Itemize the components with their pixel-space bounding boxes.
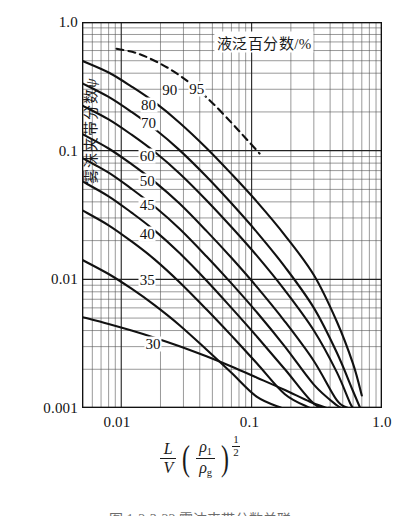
curve-label-80: 80: [140, 98, 157, 113]
grid-major: [82, 22, 382, 408]
y-axis-title: 雾沫夹带分数ψ: [79, 36, 100, 226]
flow-ratio-denominator: V: [160, 459, 176, 477]
curve-label-60: 60: [139, 149, 156, 164]
ytick-label-1: 1.0: [26, 14, 78, 31]
rho-liquid: ρ: [199, 438, 207, 455]
rho-liquid-sub: 1: [207, 446, 212, 457]
xtick-label-0p1: 0.1: [240, 414, 259, 431]
ytick-label-0p001: 0.001: [6, 400, 78, 417]
curve-label-95: 95: [188, 82, 205, 97]
flow-ratio-fraction: L V: [160, 440, 176, 478]
x-axis-title: L V ( ρ1 ρg ) 1 2: [0, 438, 400, 479]
chart-plot-area: [82, 22, 382, 408]
paren-close: ): [221, 444, 229, 474]
y-axis-title-symbol: ψ: [83, 77, 99, 87]
exponent-one-half: 1 2: [232, 434, 240, 458]
exponent-denominator: 2: [232, 447, 240, 459]
curve-label-30: 30: [144, 336, 161, 351]
chart-svg: [82, 22, 382, 408]
y-axis-title-text: 雾沫夹带分数: [83, 88, 99, 184]
rho-gas: ρ: [199, 459, 207, 476]
flow-ratio-numerator: L: [160, 440, 176, 459]
axis-ticks: [82, 22, 382, 408]
paren-open: (: [182, 444, 190, 474]
density-ratio-numerator: ρ1: [196, 438, 215, 459]
curve-label-70: 70: [140, 116, 157, 131]
curve-60: [82, 134, 348, 408]
rho-gas-sub: g: [207, 467, 212, 478]
figure-page: 1.0 0.1 0.01 0.001 0.01 0.1 1.0 雾沫夹带分数ψ …: [0, 0, 400, 516]
chart-curves: [82, 49, 362, 408]
figure-caption: 图 1-2-3-22 雾沫夹带分数关联: [0, 508, 400, 516]
curve-label-50: 50: [139, 173, 156, 188]
density-ratio-fraction: ρ1 ρg: [196, 438, 215, 479]
curve-95: [117, 49, 260, 154]
grid-minor: [82, 22, 382, 408]
curve-45: [82, 181, 330, 408]
curve-label-45: 45: [139, 198, 156, 213]
xtick-label-1p0: 1.0: [372, 414, 391, 431]
curve-label-35: 35: [139, 273, 156, 288]
curve-90: [82, 61, 362, 396]
ytick-label-0p01: 0.01: [16, 271, 78, 288]
ytick-label-0p1: 0.1: [26, 142, 78, 159]
xtick-label-0p01: 0.01: [103, 414, 130, 431]
legend-title: 液泛百分数/%: [215, 31, 314, 52]
curve-label-40: 40: [139, 227, 156, 242]
curve-label-90: 90: [161, 83, 178, 98]
exponent-numerator: 1: [232, 434, 240, 447]
density-ratio-denominator: ρg: [196, 459, 215, 479]
